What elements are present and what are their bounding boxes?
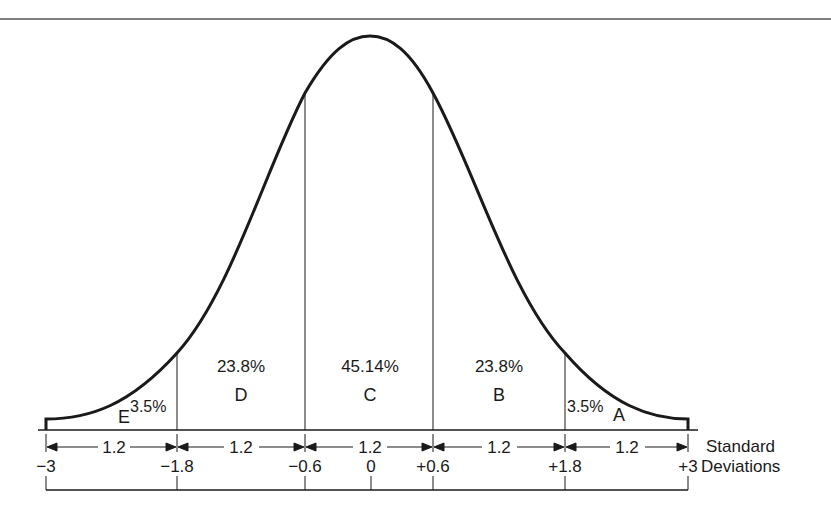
bottom-bracket bbox=[46, 476, 688, 490]
tick-label-p06: +0.6 bbox=[416, 457, 450, 476]
region-c-percent: 45.14% bbox=[341, 357, 399, 376]
span-label-2: 1.2 bbox=[229, 438, 253, 457]
region-d-letter: D bbox=[235, 385, 248, 405]
span-label-4: 1.2 bbox=[487, 438, 511, 457]
region-a-percent: 3.5% bbox=[567, 398, 603, 415]
axis-title-line1: Standard bbox=[706, 437, 775, 456]
region-e-percent: 3.5% bbox=[130, 398, 166, 415]
span-label-5: 1.2 bbox=[615, 438, 639, 457]
span-label-1: 1.2 bbox=[102, 438, 126, 457]
axis-title-line2: Deviations bbox=[701, 457, 780, 476]
normal-distribution-diagram: 23.8% D 45.14% C 23.8% B E 3.5% 3.5% A bbox=[0, 0, 831, 516]
tick-label-m18: −1.8 bbox=[160, 457, 194, 476]
tick-label-p3: +3 bbox=[678, 457, 697, 476]
region-a-letter: A bbox=[613, 405, 625, 425]
region-b-percent: 23.8% bbox=[475, 357, 523, 376]
tick-label-p18: +1.8 bbox=[548, 457, 582, 476]
region-c-letter: C bbox=[364, 385, 377, 405]
tick-label-zero: 0 bbox=[366, 457, 375, 476]
tick-label-m06: −0.6 bbox=[288, 457, 322, 476]
region-e-letter: E bbox=[118, 407, 130, 427]
region-b-letter: B bbox=[493, 385, 505, 405]
tick-label-m3: −3 bbox=[36, 457, 55, 476]
region-d-percent: 23.8% bbox=[217, 357, 265, 376]
span-label-3: 1.2 bbox=[358, 438, 382, 457]
